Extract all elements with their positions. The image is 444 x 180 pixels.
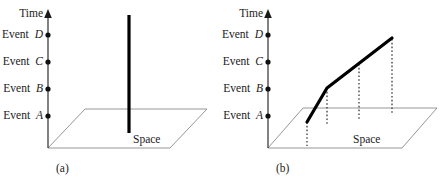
event-label-b-A-name: A	[255, 109, 264, 121]
event-dot-a-A	[45, 113, 50, 118]
event-dot-b-B	[265, 86, 270, 91]
time-axis-label-b: Time	[239, 7, 263, 19]
event-label-a-D-name: D	[34, 28, 44, 40]
event-dot-b-D	[265, 32, 270, 37]
event-label-b-B-prefix: Event	[223, 82, 251, 94]
event-label-a-B-prefix: Event	[3, 82, 31, 94]
time-axis-label-a: Time	[19, 7, 43, 19]
event-dot-a-C	[45, 59, 50, 64]
event-dot-b-A	[265, 113, 270, 118]
spacetime-diagram-figure: Time Event D Event C Event B Event A Spa…	[0, 0, 444, 180]
event-label-a-A: Event A	[3, 109, 44, 121]
event-label-a-A-prefix: Event	[3, 109, 31, 121]
time-axis-arrow-b	[264, 9, 272, 18]
event-label-a-D-prefix: Event	[2, 28, 30, 40]
event-label-a-A-name: A	[35, 109, 44, 121]
space-plane-label-a: Space	[133, 133, 160, 146]
event-label-a-C: Event C	[3, 55, 44, 67]
event-label-b-D-prefix: Event	[222, 28, 250, 40]
event-label-b-B: Event B	[223, 82, 263, 94]
event-label-b-C: Event C	[223, 55, 264, 67]
event-dot-a-D	[45, 32, 50, 37]
event-label-b-D: Event D	[222, 28, 264, 40]
panel-caption-b: (b)	[276, 162, 290, 175]
event-label-b-B-name: B	[256, 82, 263, 94]
panel-b: Time Event D Event C Event B Event A Spa…	[222, 7, 437, 175]
event-label-a-D: Event D	[2, 28, 44, 40]
event-dot-b-C	[265, 59, 270, 64]
event-label-a-C-name: C	[35, 55, 43, 67]
event-label-b-D-name: D	[254, 28, 264, 40]
space-plane-label-b: Space	[353, 133, 380, 146]
event-label-a-C-prefix: Event	[3, 55, 31, 67]
event-label-b-C-name: C	[255, 55, 263, 67]
time-axis-arrow-a	[44, 9, 52, 18]
panel-a: Time Event D Event C Event B Event A Spa…	[2, 7, 207, 175]
panel-caption-a: (a)	[56, 162, 69, 175]
event-label-a-B: Event B	[3, 82, 43, 94]
event-label-b-A: Event A	[223, 109, 264, 121]
event-label-b-C-prefix: Event	[223, 55, 251, 67]
event-label-a-B-name: B	[36, 82, 43, 94]
event-dot-a-B	[45, 86, 50, 91]
worldline-b	[307, 38, 392, 122]
event-label-b-A-prefix: Event	[223, 109, 251, 121]
